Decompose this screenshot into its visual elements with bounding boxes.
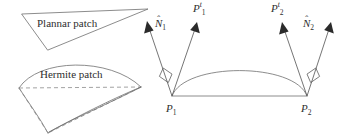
tangent-p1-subscript: 1 (202, 8, 206, 17)
tangent-vector-p1-arrowhead (190, 22, 200, 33)
hermite-left-chord-dashed (19, 88, 48, 133)
right-angle-marker-p2 (307, 68, 320, 83)
tangent-p1-base: P (193, 2, 200, 14)
endpoint-p2-base: P (301, 102, 308, 114)
normal-vector-p2-group (307, 22, 334, 96)
planar-patch-group (22, 9, 148, 50)
tangent-vector-p2-group (279, 22, 307, 96)
tangent-vector-p2-shaft (283, 26, 307, 96)
normal-vector-p2-shaft (307, 26, 330, 96)
normal-vector-p1-arrowhead (144, 21, 154, 34)
hermite-top-chord-dashed (19, 87, 141, 88)
normal-vector-p2-arrowhead (324, 22, 334, 33)
right-angle-marker-p1 (159, 68, 172, 83)
tangent-p2-base: P (271, 2, 278, 14)
endpoint-p1-base: P (166, 102, 173, 114)
normal-vector-p1-shaft (148, 25, 172, 96)
figure-container: Plannar patch Hermite patch ̂N1 Pt1 Pt2 … (0, 0, 349, 137)
hermite-arc (172, 71, 307, 97)
endpoint-p2-label: P2 (301, 103, 311, 114)
hermite-patch-label: Hermite patch (40, 69, 103, 80)
normal-vector-p1-group (144, 21, 172, 96)
endpoint-p2-subscript: 2 (308, 108, 312, 117)
endpoint-p1-label: P1 (166, 103, 176, 114)
normal-p1-subscript: 1 (162, 23, 166, 32)
planar-patch-triangle (22, 9, 148, 50)
endpoint-p1-subscript: 1 (173, 108, 177, 117)
tangent-vector-p1-label: Pt1 (193, 3, 206, 14)
planar-patch-label: Plannar patch (37, 18, 97, 29)
tangent-vector-p1-shaft (172, 26, 196, 96)
tangent-vector-p2-arrowhead (279, 22, 289, 35)
normal-p2-subscript: 2 (310, 23, 314, 32)
tangent-vector-p2-label: Pt2 (271, 3, 284, 14)
hermite-curve-group (172, 71, 307, 97)
normal-vector-p1-label: ̂N1 (155, 18, 166, 29)
tangent-p2-subscript: 2 (280, 8, 284, 17)
tangent-vector-p1-group (172, 22, 200, 96)
normal-vector-p2-label: ̂N2 (303, 18, 314, 29)
